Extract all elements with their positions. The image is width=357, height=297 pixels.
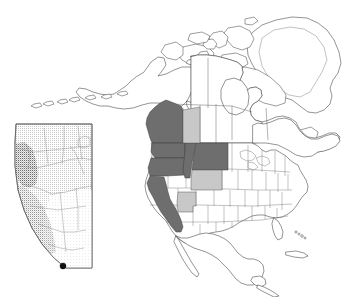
- region-wyoming: [191, 170, 222, 190]
- island-banks: [161, 42, 183, 60]
- locality-point-marker: [60, 263, 66, 269]
- landmass-hawaii: [295, 231, 306, 239]
- cuba: [286, 251, 308, 258]
- inset-map-alberta: [4, 118, 108, 278]
- region-oregon: [148, 158, 185, 176]
- map-figure: [0, 0, 357, 297]
- region-washington: [151, 143, 185, 158]
- central-america: [257, 285, 279, 297]
- florida-peninsula: [272, 218, 283, 240]
- island-small-arctic-a: [245, 17, 258, 25]
- region-alberta: [183, 107, 200, 143]
- region-british-columbia: [146, 100, 183, 143]
- island-ellesmere: [224, 26, 254, 50]
- region-montana: [192, 143, 228, 170]
- region-utah: [177, 192, 196, 212]
- island-melville: [188, 32, 210, 44]
- landmass-alaska: [76, 57, 199, 109]
